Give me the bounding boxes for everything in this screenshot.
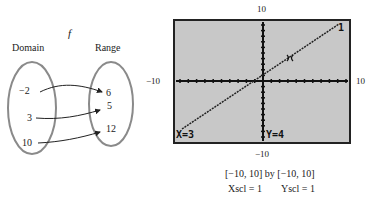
graph-line bbox=[182, 24, 339, 129]
graph-number: 1 bbox=[338, 22, 344, 33]
yscl-label: Yscl = 1 bbox=[281, 184, 315, 194]
trace-x-readout: X=3 bbox=[176, 129, 194, 140]
trace-y-readout: Y=4 bbox=[266, 129, 284, 140]
xscl-label: Xscl = 1 bbox=[228, 184, 262, 194]
graph-plot bbox=[0, 0, 375, 204]
window-caption: [−10, 10] by [−10, 10] bbox=[225, 169, 315, 179]
